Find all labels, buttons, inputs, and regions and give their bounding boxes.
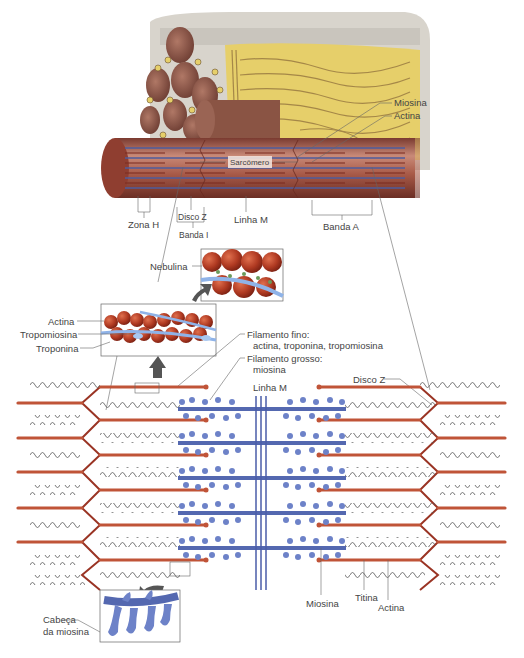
z-disc-left <box>82 387 100 590</box>
label-sarcomero: Sarcômero <box>230 157 269 168</box>
label-tropomiosina: Tropomiosina <box>20 329 77 340</box>
thin-filament-zoom-box <box>101 304 216 356</box>
label-actina-detail: Actina <box>378 602 404 613</box>
label-disco-z: Disco Z <box>178 212 207 223</box>
label-actina-zoom: Actina <box>48 316 74 327</box>
label-linha-m-detail: Linha M <box>253 382 287 393</box>
muscle-fiber-illustration <box>101 12 430 198</box>
label-cabeca: Cabeça <box>43 614 76 625</box>
label-filamento-fino: Filamento fino: <box>247 329 309 340</box>
label-banda-i: Banda I <box>179 230 208 241</box>
zoom-arrow-icon <box>149 356 166 378</box>
label-miosina: Miosina <box>394 97 427 108</box>
label-filamento-grosso-composition: miosina <box>253 364 286 375</box>
label-nebulina: Nebulina <box>150 261 188 272</box>
m-line <box>256 396 266 590</box>
label-actina: Actina <box>394 110 420 121</box>
titin-springs <box>30 382 500 585</box>
label-linha-m: Linha M <box>234 214 268 225</box>
label-da-miosina: da miosina <box>43 626 89 637</box>
label-zona-h: Zona H <box>128 219 159 230</box>
sarcomere-diagram: Miosina Actina Sarcômero Zona H Disco Z … <box>0 0 524 658</box>
label-filamento-grosso: Filamento grosso: <box>247 353 323 364</box>
label-banda-a: Banda A <box>323 221 359 232</box>
myosin-head-zoom-box <box>100 590 180 642</box>
label-troponina: Troponina <box>36 343 78 354</box>
nebulin-zoom-box <box>201 249 283 301</box>
label-disco-z-detail: Disco Z <box>353 374 385 385</box>
z-disc-right <box>420 387 438 590</box>
label-titina: Titina <box>355 592 378 603</box>
sarcomere-filament-array <box>18 382 505 590</box>
label-miosina-detail: Miosina <box>306 598 339 609</box>
label-filamento-fino-composition: actina, troponina, tropomiosina <box>253 340 383 351</box>
